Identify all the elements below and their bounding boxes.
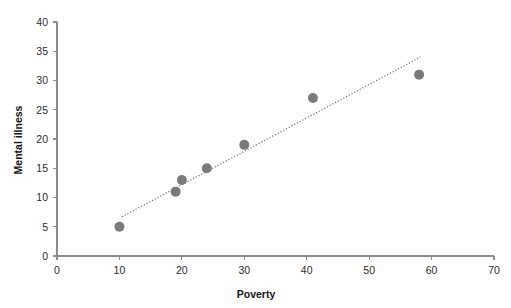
x-tick-label: 20 [176, 264, 188, 276]
scatter-chart: 0510152025303540 010203040506070 Poverty… [0, 0, 511, 308]
data-point [308, 93, 318, 103]
y-tick-label: 35 [36, 45, 48, 57]
x-axis: 010203040506070 [54, 256, 500, 276]
data-point-group [114, 70, 424, 232]
y-tick-label: 0 [42, 250, 48, 262]
data-point [171, 187, 181, 197]
y-tick-label: 20 [36, 133, 48, 145]
data-point [114, 222, 124, 232]
y-tick-label: 40 [36, 16, 48, 28]
trend-line [122, 57, 420, 217]
trend-line-group [122, 57, 420, 217]
data-point [239, 140, 249, 150]
data-point [202, 163, 212, 173]
x-axis-title: Poverty [237, 288, 276, 300]
y-tick-label: 25 [36, 104, 48, 116]
y-tick-label: 15 [36, 162, 48, 174]
y-axis: 0510152025303540 [36, 16, 57, 262]
y-tick-label: 10 [36, 191, 48, 203]
x-tick-label: 50 [363, 264, 375, 276]
x-tick-group: 010203040506070 [54, 256, 500, 276]
x-tick-label: 60 [426, 264, 438, 276]
x-tick-label: 10 [114, 264, 126, 276]
y-tick-label: 30 [36, 74, 48, 86]
y-axis-title: Mental illness [12, 105, 24, 174]
x-tick-label: 30 [238, 264, 250, 276]
data-point [414, 70, 424, 80]
x-tick-label: 40 [301, 264, 313, 276]
chart-canvas: 0510152025303540 010203040506070 Poverty… [0, 0, 511, 308]
x-tick-label: 0 [54, 264, 60, 276]
y-tick-label: 5 [42, 221, 48, 233]
y-tick-group: 0510152025303540 [36, 16, 57, 262]
data-point [177, 175, 187, 185]
x-tick-label: 70 [488, 264, 500, 276]
